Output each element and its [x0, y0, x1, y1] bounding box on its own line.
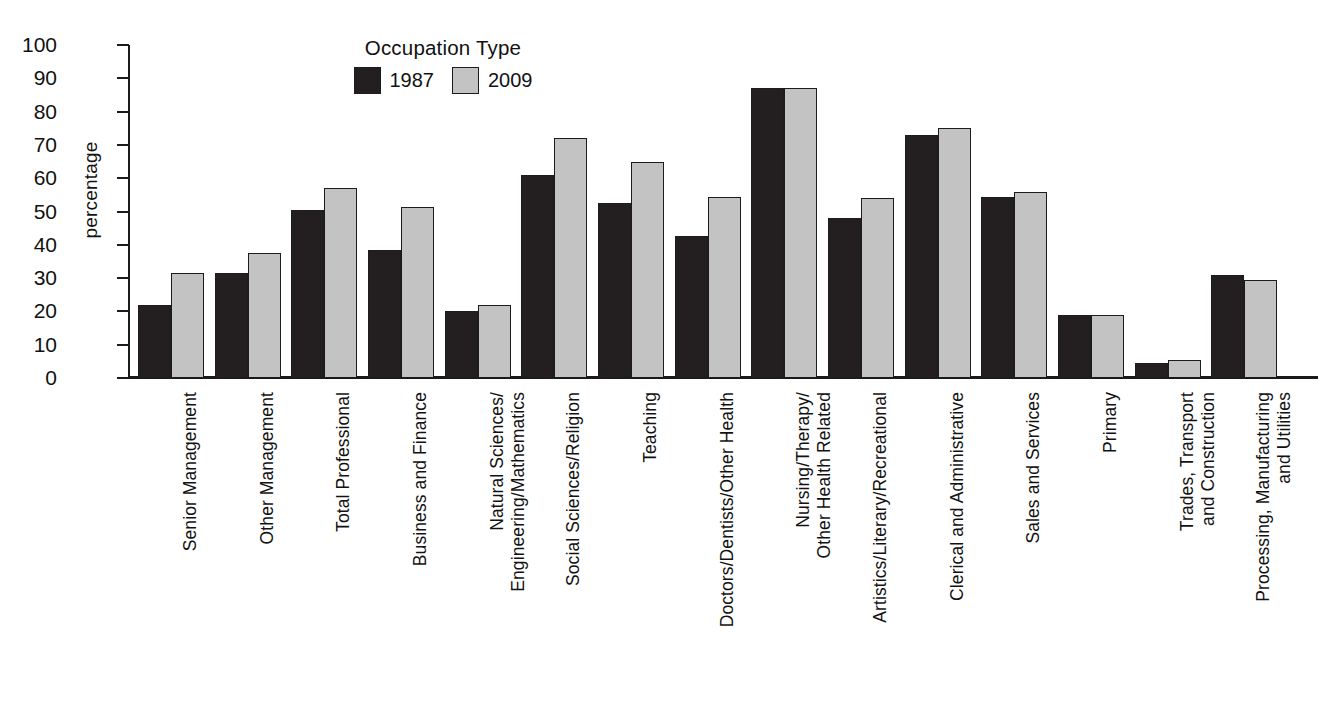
- x-axis-label-wrapper: Nursing/Therapy/ Other Health Related: [793, 392, 834, 652]
- x-axis-tick-label: Processing, Manufacturing and Utilities: [1253, 392, 1294, 652]
- bar: [248, 253, 281, 378]
- x-axis-label-wrapper: Processing, Manufacturing and Utilities: [1253, 392, 1294, 652]
- bar: [828, 218, 861, 378]
- x-axis-tick-label: Artistics/Literary/Recreational: [870, 392, 891, 652]
- bar: [1058, 315, 1091, 378]
- bar-group: [215, 45, 281, 378]
- x-axis-label-wrapper: Trades, Transport and Construction: [1177, 392, 1218, 652]
- bar-group: [1211, 45, 1277, 378]
- x-axis-tick-label: Business and Finance: [410, 392, 431, 652]
- bar-group: [138, 45, 204, 378]
- legend-swatch: [452, 67, 479, 94]
- legend-item: 2009: [452, 67, 533, 94]
- bar: [905, 135, 938, 378]
- bar-group: [1058, 45, 1124, 378]
- bar-group: [981, 45, 1047, 378]
- bar: [784, 88, 817, 378]
- bar-group: [905, 45, 971, 378]
- x-axis-tick-label: Natural Sciences/ Engineering/Mathematic…: [487, 392, 528, 652]
- legend-label: 2009: [488, 69, 533, 92]
- bar: [478, 305, 511, 378]
- y-axis-title: percentage: [80, 90, 102, 290]
- y-axis-tick-label: 70: [0, 134, 57, 155]
- bar-group: [751, 45, 817, 378]
- y-axis-tick: [117, 77, 129, 79]
- bar: [171, 273, 204, 378]
- y-axis-tick-label: 90: [0, 67, 57, 88]
- bar: [1135, 363, 1168, 378]
- x-axis-label-wrapper: Social Sciences/Religion: [563, 392, 584, 652]
- legend-item: 1987: [354, 67, 435, 94]
- x-axis-tick-label: Clerical and Administrative: [947, 392, 968, 652]
- x-axis-tick-label: Other Management: [257, 392, 278, 652]
- x-axis-label-wrapper: Business and Finance: [410, 392, 431, 652]
- bar: [751, 88, 784, 378]
- y-axis-tick: [117, 344, 129, 346]
- bar-group: [1135, 45, 1201, 378]
- bar: [631, 162, 664, 378]
- y-axis-tick: [117, 377, 129, 379]
- bar: [401, 207, 434, 378]
- bar-group: [828, 45, 894, 378]
- chart-page: percentage 1009080706050403020100 Senior…: [0, 0, 1324, 715]
- x-axis-label-wrapper: Clerical and Administrative: [947, 392, 968, 652]
- plot-area: [128, 45, 1318, 378]
- x-axis-label-wrapper: Senior Management: [180, 392, 201, 652]
- bar-group: [521, 45, 587, 378]
- y-axis-tick: [117, 177, 129, 179]
- x-axis-label-wrapper: Teaching: [640, 392, 661, 652]
- bar: [324, 188, 357, 378]
- y-axis-tick-label: 80: [0, 101, 57, 122]
- x-axis-tick-label: Doctors/Dentists/Other Health: [717, 392, 738, 652]
- y-axis-tick: [117, 244, 129, 246]
- bar: [1014, 192, 1047, 378]
- bar: [598, 203, 631, 378]
- x-axis-label-wrapper: Total Professional: [333, 392, 354, 652]
- bar: [215, 273, 248, 378]
- legend-title: Occupation Type: [318, 36, 568, 60]
- bar: [521, 175, 554, 378]
- bar: [554, 138, 587, 378]
- y-axis-tick-label: 40: [0, 234, 57, 255]
- bar: [861, 198, 894, 378]
- bar: [675, 236, 708, 378]
- bar: [368, 250, 401, 378]
- legend-items: 19872009: [318, 67, 568, 94]
- legend-swatch: [354, 67, 381, 94]
- y-axis-tick: [117, 310, 129, 312]
- x-axis-tick-label: Nursing/Therapy/ Other Health Related: [793, 392, 834, 652]
- bar: [1091, 315, 1124, 378]
- y-axis-tick-label: 50: [0, 201, 57, 222]
- y-axis-tick-label: 20: [0, 300, 57, 321]
- legend: Occupation Type 19872009: [318, 36, 568, 94]
- legend-label: 1987: [390, 69, 435, 92]
- bar-group: [675, 45, 741, 378]
- y-axis-tick-label: 30: [0, 267, 57, 288]
- x-axis-tick-label: Trades, Transport and Construction: [1177, 392, 1218, 652]
- x-axis-tick-label: Senior Management: [180, 392, 201, 652]
- bar-group: [368, 45, 434, 378]
- bar: [938, 128, 971, 378]
- y-axis-tick: [117, 144, 129, 146]
- x-axis-label-wrapper: Primary: [1100, 392, 1121, 652]
- x-axis-label-wrapper: Doctors/Dentists/Other Health: [717, 392, 738, 652]
- bar: [1168, 360, 1201, 378]
- y-axis-tick-label: 60: [0, 167, 57, 188]
- x-axis-tick-label: Teaching: [640, 392, 661, 652]
- y-axis-tick-label: 0: [0, 367, 57, 388]
- bar-group: [445, 45, 511, 378]
- bar: [445, 311, 478, 378]
- bar-group: [598, 45, 664, 378]
- x-axis-tick-label: Sales and Services: [1023, 392, 1044, 652]
- bar: [1244, 280, 1277, 378]
- bar: [1211, 275, 1244, 378]
- bar: [138, 305, 171, 378]
- x-axis-tick-label: Primary: [1100, 392, 1121, 652]
- x-axis-tick-label: Social Sciences/Religion: [563, 392, 584, 652]
- bar: [291, 210, 324, 378]
- y-axis-tick: [117, 111, 129, 113]
- y-axis-tick-label: 10: [0, 334, 57, 355]
- bar: [708, 197, 741, 378]
- y-axis-tick: [117, 277, 129, 279]
- y-axis-tick-labels: 1009080706050403020100: [0, 45, 57, 378]
